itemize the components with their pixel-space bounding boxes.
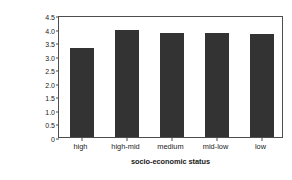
- bar-low[interactable]: [250, 34, 274, 137]
- bar-medium[interactable]: [160, 33, 184, 137]
- plot-area: 00.51.01.52.02.53.03.54.04.5: [58, 16, 283, 138]
- bar-slot: [104, 17, 149, 137]
- y-axis-tick-mark: [56, 57, 60, 58]
- x-axis-tick-mark: [81, 137, 82, 141]
- y-axis-tick-mark: [56, 139, 60, 140]
- bar-slot: [194, 17, 239, 137]
- x-axis-tick-mark: [126, 137, 127, 141]
- x-axis-tick-mark: [216, 137, 217, 141]
- bar-slot: [149, 17, 194, 137]
- y-axis-tick-mark: [56, 71, 60, 72]
- x-axis-tick-label-mid-low: mid-low: [203, 142, 228, 151]
- x-axis-tick-mark: [171, 137, 172, 141]
- bar-high[interactable]: [70, 48, 94, 137]
- bar-high-mid[interactable]: [115, 30, 139, 137]
- y-axis-tick-mark: [56, 17, 60, 18]
- x-axis-tick-label-high: high: [74, 142, 88, 151]
- bar-slot: [239, 17, 284, 137]
- bar-chart-figure: age-adjusted incidence (per 100,000) 00.…: [0, 0, 292, 180]
- bar-slot: [59, 17, 104, 137]
- y-axis-tick-mark: [56, 111, 60, 112]
- y-axis-tick-mark: [56, 98, 60, 99]
- bars-layer: [59, 17, 282, 137]
- x-axis-title: socio-economic status: [58, 157, 283, 166]
- y-axis-tick-mark: [56, 44, 60, 45]
- bar-mid-low[interactable]: [205, 33, 229, 137]
- x-axis-tick-mark: [261, 137, 262, 141]
- x-axis-tick-label-high-mid: high-mid: [111, 142, 139, 151]
- y-axis-tick-mark: [56, 30, 60, 31]
- y-axis-tick-mark: [56, 84, 60, 85]
- x-axis-tick-label-low: low: [255, 142, 266, 151]
- x-axis-tick-label-medium: medium: [157, 142, 183, 151]
- y-axis-tick-mark: [56, 125, 60, 126]
